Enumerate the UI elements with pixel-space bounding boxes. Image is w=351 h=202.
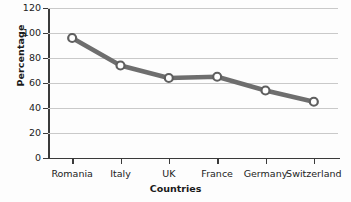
y-axis-tick <box>43 83 48 84</box>
x-axis-tick-label: France <box>201 168 233 179</box>
x-axis-tick <box>121 159 122 164</box>
y-axis-tick-label: 100 <box>0 27 41 38</box>
series-polyline <box>72 38 314 102</box>
data-point-marker <box>213 73 221 81</box>
x-axis-tick <box>314 159 315 164</box>
data-series-line <box>48 8 338 158</box>
x-axis-tick <box>72 159 73 164</box>
y-axis-tick-label: 120 <box>0 2 41 13</box>
y-axis-tick <box>43 33 48 34</box>
data-point-marker <box>310 98 318 106</box>
y-axis-tick-label: 40 <box>0 102 41 113</box>
x-axis-tick-label: Italy <box>110 168 131 179</box>
y-axis-tick-label: 0 <box>0 152 41 163</box>
y-axis-tick <box>43 58 48 59</box>
y-axis-tick-label: 20 <box>0 127 41 138</box>
x-axis-tick-label: Germany <box>244 168 288 179</box>
y-axis-tick <box>43 108 48 109</box>
data-point-marker <box>262 87 270 95</box>
x-axis-title: Countries <box>0 183 351 194</box>
x-axis-tick <box>217 159 218 164</box>
y-axis-tick-label: 80 <box>0 52 41 63</box>
data-point-marker <box>165 74 173 82</box>
line-chart: Percentage 020406080100120 RomaniaItalyU… <box>0 0 351 202</box>
x-axis-tick-label: Romania <box>51 168 93 179</box>
y-axis-tick <box>43 158 48 159</box>
data-point-marker <box>68 34 76 42</box>
y-axis-tick <box>43 133 48 134</box>
x-axis-tick-label: UK <box>162 168 175 179</box>
plot-area <box>48 8 338 158</box>
x-axis-tick-label: Switzerland <box>286 168 341 179</box>
data-point-marker <box>117 62 125 70</box>
x-axis-tick <box>169 159 170 164</box>
x-axis-tick <box>266 159 267 164</box>
y-axis-tick-label: 60 <box>0 77 41 88</box>
y-axis-tick <box>43 8 48 9</box>
